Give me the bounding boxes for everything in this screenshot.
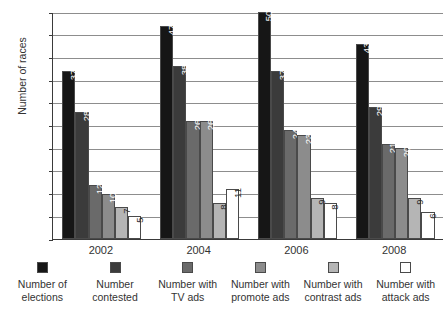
legend-swatch bbox=[255, 262, 266, 273]
plot-area: 0510152025303540455037281210754738262681… bbox=[52, 13, 443, 240]
bar: 6 bbox=[421, 212, 434, 239]
legend-swatch bbox=[37, 262, 48, 273]
bar: 28 bbox=[75, 112, 88, 239]
y-axis-tickmark bbox=[49, 58, 53, 59]
bar-group: 47382626811 bbox=[160, 13, 239, 239]
bar-value-label: 9 bbox=[415, 199, 425, 204]
bar: 10 bbox=[102, 194, 115, 239]
legend-label: Number of elections bbox=[6, 278, 79, 303]
y-axis-tickmark bbox=[49, 126, 53, 127]
bar-value-label: 26 bbox=[206, 120, 216, 131]
legend-item[interactable]: Number with TV ads bbox=[151, 262, 224, 303]
legend-label: Number with TV ads bbox=[151, 278, 224, 303]
x-axis-tick-label: 2008 bbox=[382, 244, 406, 256]
legend-label: Number with attack ads bbox=[369, 278, 442, 303]
bar-value-label: 47 bbox=[167, 24, 177, 35]
bar: 24 bbox=[284, 130, 297, 239]
y-axis-tickmark bbox=[49, 194, 53, 195]
bar-value-label: 12 bbox=[95, 183, 105, 194]
bar-value-label: 43 bbox=[362, 42, 372, 53]
legend-swatch bbox=[328, 262, 339, 273]
x-axis-tick-label: 2004 bbox=[186, 244, 210, 256]
bar: 37 bbox=[62, 71, 75, 239]
bar: 9 bbox=[408, 198, 421, 239]
bar-value-label: 29 bbox=[375, 106, 385, 117]
legend-item[interactable]: Number contested bbox=[79, 262, 152, 303]
bar: 12 bbox=[89, 185, 102, 239]
y-axis-tickmark bbox=[49, 217, 53, 218]
bar-value-label: 38 bbox=[180, 65, 190, 76]
y-axis-tickmark bbox=[49, 81, 53, 82]
legend-item[interactable]: Number with attack ads bbox=[369, 262, 442, 303]
y-axis-tickmark bbox=[49, 171, 53, 172]
legend-item[interactable]: Number of elections bbox=[6, 262, 79, 303]
bar-value-label: 50 bbox=[264, 11, 274, 22]
bar-value-label: 5 bbox=[135, 218, 145, 223]
legend-swatch bbox=[400, 262, 411, 273]
y-axis-title: Number of races bbox=[16, 16, 28, 136]
bar-group: 5037242398 bbox=[258, 13, 337, 239]
bar: 8 bbox=[213, 203, 226, 239]
bar-value-label: 8 bbox=[330, 204, 340, 209]
bar: 29 bbox=[369, 107, 382, 239]
bar: 21 bbox=[382, 144, 395, 239]
bar: 11 bbox=[226, 189, 239, 239]
y-axis-tickmark bbox=[49, 35, 53, 36]
bar: 26 bbox=[200, 121, 213, 239]
bar-value-label: 6 bbox=[428, 213, 438, 218]
y-axis-tickmark bbox=[49, 103, 53, 104]
bar-group: 4329212096 bbox=[356, 13, 435, 239]
bar-value-label: 11 bbox=[233, 188, 243, 198]
bar-value-label: 37 bbox=[278, 70, 288, 81]
legend-label: Number contested bbox=[79, 278, 152, 303]
bar: 37 bbox=[271, 71, 284, 239]
bar: 23 bbox=[297, 135, 310, 239]
bar: 8 bbox=[324, 203, 337, 239]
bar-value-label: 28 bbox=[82, 111, 92, 122]
bar-chart: Number of races 051015202530354045503728… bbox=[0, 0, 448, 320]
y-axis-tickmark bbox=[49, 13, 53, 14]
bar: 50 bbox=[258, 12, 271, 239]
legend-swatch bbox=[182, 262, 193, 273]
bar-value-label: 37 bbox=[69, 70, 79, 81]
bar-value-label: 7 bbox=[122, 209, 132, 214]
legend-swatch bbox=[110, 262, 121, 273]
bar: 47 bbox=[160, 26, 173, 239]
bar: 43 bbox=[356, 44, 369, 239]
legend-label: Number with promote ads bbox=[224, 278, 297, 303]
legend-label: Number with contrast ads bbox=[297, 278, 370, 303]
bar: 20 bbox=[395, 148, 408, 239]
x-axis-tick-label: 2002 bbox=[89, 244, 113, 256]
bar: 9 bbox=[311, 198, 324, 239]
bar-value-label: 20 bbox=[402, 147, 412, 158]
y-axis-tickmark bbox=[49, 149, 53, 150]
legend-item[interactable]: Number with promote ads bbox=[224, 262, 297, 303]
bar: 38 bbox=[173, 66, 186, 239]
x-axis-tick-label: 2006 bbox=[284, 244, 308, 256]
y-axis-tickmark bbox=[49, 240, 53, 241]
chart-legend: Number of electionsNumber contestedNumbe… bbox=[6, 262, 442, 316]
bar-value-label: 23 bbox=[304, 133, 314, 144]
bar: 26 bbox=[186, 121, 199, 239]
legend-item[interactable]: Number with contrast ads bbox=[297, 262, 370, 303]
bar: 7 bbox=[115, 207, 128, 239]
bar: 5 bbox=[128, 216, 141, 239]
bar-value-label: 10 bbox=[108, 192, 118, 203]
bar-group: 3728121075 bbox=[62, 13, 141, 239]
